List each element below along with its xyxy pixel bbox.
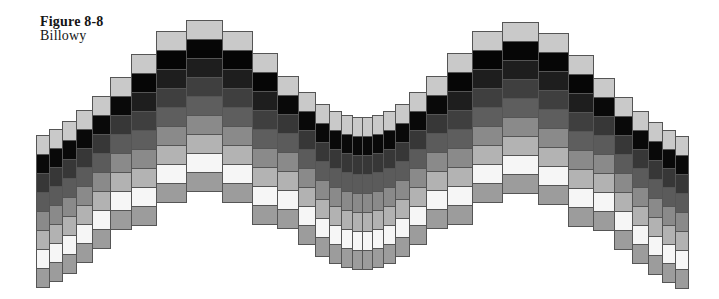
grid-cell [92, 210, 111, 230]
grid-cell [315, 142, 330, 162]
grid-cell [222, 164, 253, 184]
grid-cell [315, 237, 330, 257]
grid-cell [62, 121, 77, 141]
grid-cell [502, 41, 539, 61]
grid-cell [110, 191, 132, 211]
grid-cell [92, 172, 111, 192]
grid-cell [186, 153, 223, 173]
grid-cell [277, 95, 299, 115]
grid-cell [472, 69, 503, 89]
grid-cell [409, 206, 427, 226]
grid-cell [426, 209, 448, 229]
grid-cell [538, 33, 569, 53]
grid-cell [131, 73, 157, 93]
grid-cell [186, 134, 223, 154]
grid-cell [662, 263, 676, 283]
grid-cell [662, 206, 676, 226]
grid-cell [502, 117, 539, 137]
grid-cell [92, 191, 111, 211]
grid-cell [222, 88, 253, 108]
grid-cell [62, 159, 77, 179]
grid-cell [186, 172, 223, 192]
grid-cell [426, 190, 448, 210]
grid-cell [156, 31, 187, 51]
grid-cell [277, 152, 299, 172]
grid-cell [36, 268, 50, 288]
grid-cell [277, 114, 299, 134]
grid-cell [298, 111, 316, 131]
grid-cell [502, 60, 539, 80]
grid-cell [298, 168, 316, 188]
grid-cell [648, 141, 663, 161]
grid-cell [156, 50, 187, 70]
grid-cell [156, 164, 187, 184]
grid-cell [614, 211, 633, 231]
grid-cell [409, 92, 427, 112]
grid-cell [632, 130, 649, 150]
grid-cell [675, 136, 689, 156]
grid-cell [426, 152, 448, 172]
grid-cell [395, 161, 410, 181]
grid-cell [49, 205, 63, 225]
grid-cell [632, 187, 649, 207]
grid-cell [131, 149, 157, 169]
grid-cell [62, 235, 77, 255]
grid-cell [648, 160, 663, 180]
grid-cell [222, 50, 253, 70]
grid-cell [222, 126, 253, 146]
grid-cell [110, 134, 132, 154]
grid-cell [49, 224, 63, 244]
grid-cell [662, 149, 676, 169]
grid-cell [62, 216, 77, 236]
grid-cell [593, 97, 615, 117]
grid-cell [568, 112, 594, 132]
grid-cell [222, 183, 253, 203]
grid-cell [252, 148, 278, 168]
grid-cell [648, 236, 663, 256]
grid-cell [632, 149, 649, 169]
grid-cell [632, 225, 649, 245]
grid-cell [614, 135, 633, 155]
grid-cell [252, 167, 278, 187]
grid-cell [568, 74, 594, 94]
grid-cell [186, 115, 223, 135]
grid-cell [298, 92, 316, 112]
grid-cell [568, 150, 594, 170]
grid-cell [538, 166, 569, 186]
grid-cell [593, 154, 615, 174]
grid-cell [538, 71, 569, 91]
grid-cell [593, 135, 615, 155]
grid-cell [568, 131, 594, 151]
grid-cell [662, 187, 676, 207]
grid-cell [131, 168, 157, 188]
grid-cell [614, 192, 633, 212]
grid-cell [409, 111, 427, 131]
grid-cell [662, 244, 676, 264]
grid-cell [156, 145, 187, 165]
grid-cell [648, 217, 663, 237]
grid-cell [426, 114, 448, 134]
grid-cell [568, 207, 594, 227]
grid-cell [298, 206, 316, 226]
grid-cell [110, 115, 132, 135]
grid-cell [186, 96, 223, 116]
grid-cell [252, 72, 278, 92]
grid-cell [502, 22, 539, 42]
grid-cell [502, 79, 539, 99]
grid-cell [277, 76, 299, 96]
grid-cell [447, 148, 473, 168]
grid-cell [472, 145, 503, 165]
grid-cell [156, 88, 187, 108]
grid-cell [395, 123, 410, 143]
grid-cell [252, 110, 278, 130]
grid-cell [472, 164, 503, 184]
grid-cell [156, 183, 187, 203]
grid-cell [614, 173, 633, 193]
grid-cell [252, 205, 278, 225]
grid-cell [156, 126, 187, 146]
grid-cell [76, 110, 93, 130]
grid-cell [76, 167, 93, 187]
grid-cell [472, 50, 503, 70]
grid-cell [632, 111, 649, 131]
grid-cell [36, 173, 50, 193]
